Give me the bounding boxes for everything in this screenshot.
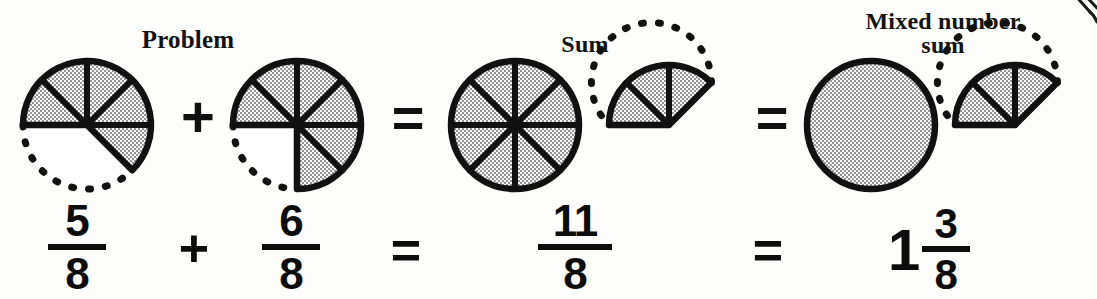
fraction-circle-8-8-svg: [442, 52, 588, 198]
fraction-circle-3-8-svg: [600, 56, 738, 194]
mixed-number-fraction-part: 3 8: [922, 204, 970, 295]
fraction-5-8: 5 8: [48, 200, 106, 295]
fraction-circle-8-8: [442, 52, 588, 198]
fraction-circle-5-8-svg: [14, 52, 160, 198]
scan-artifact-icon: [1057, 0, 1097, 26]
mixed-number-numerator: 3: [935, 204, 958, 244]
equals-operator-bottom-2: =: [740, 224, 796, 276]
fraction-11-8: 11 8: [538, 200, 612, 295]
fraction-circle-whole-svg: [798, 52, 944, 198]
fraction-circle-3-8-mixed-svg: [946, 56, 1084, 194]
equals-operator-top-2: =: [742, 90, 802, 146]
equals-operator-top-1: =: [378, 90, 438, 146]
fraction-circle-3-8-mixed: [946, 56, 1084, 194]
equals-operator-bottom-1: =: [378, 224, 434, 276]
plus-operator-bottom: +: [166, 222, 222, 274]
fraction-circle-5-8: [14, 52, 160, 198]
division-lines-8-8: [451, 61, 579, 189]
fraction-6-8: 6 8: [262, 200, 320, 295]
fraction-circle-6-8: [224, 52, 370, 198]
fraction-6-8-numerator: 6: [279, 200, 302, 242]
fraction-circle-6-8-svg: [224, 52, 370, 198]
fraction-11-8-numerator: 11: [553, 200, 598, 242]
fraction-circle-3-8: [600, 56, 738, 194]
mixed-number-1-3-8: 1 3 8: [888, 204, 970, 295]
fraction-6-8-denominator: 8: [279, 253, 302, 295]
mixed-number-denominator: 8: [935, 255, 958, 295]
fraction-5-8-denominator: 8: [65, 253, 88, 295]
fraction-11-8-denominator: 8: [563, 253, 586, 295]
plus-operator-top: +: [168, 88, 228, 146]
fraction-5-8-numerator: 5: [65, 200, 88, 242]
fraction-addition-diagram: Problem Sum Mixed number sum + = =: [0, 0, 1097, 299]
shaded-region-whole: [807, 61, 935, 189]
fraction-circle-whole: [798, 52, 944, 198]
heading-problem: Problem: [88, 27, 288, 53]
mixed-number-whole-part: 1: [888, 222, 918, 278]
